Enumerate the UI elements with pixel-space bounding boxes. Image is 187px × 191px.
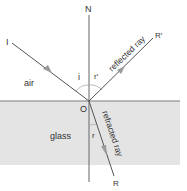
label-angle-r: r [92, 131, 95, 140]
label-glass: glass [50, 131, 72, 141]
diagram-svg: N I R′ R O i r′ r air glass reflected ra… [0, 0, 187, 191]
label-r-end: R [113, 179, 119, 188]
label-r-prime-end: R′ [155, 31, 163, 40]
label-air: air [24, 78, 34, 88]
glass-block [0, 101, 180, 165]
label-o: O [80, 104, 87, 114]
angle-r-prime-arc [89, 85, 102, 90]
incident-arrow-icon [43, 65, 52, 73]
label-reflected-ray: reflected ray [106, 33, 147, 73]
label-n: N [85, 4, 92, 14]
label-angle-r-prime: r′ [94, 72, 99, 81]
angle-i-arc [76, 85, 89, 91]
label-angle-i: i [78, 72, 80, 82]
refraction-diagram: N I R′ R O i r′ r air glass reflected ra… [0, 0, 187, 191]
label-i-start: I [6, 37, 9, 47]
